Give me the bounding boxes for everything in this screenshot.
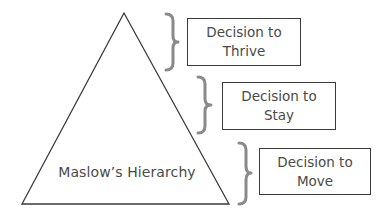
decision-move-line1: Decision to [277,153,352,172]
decision-stay-line1: Decision to [241,87,316,106]
decision-thrive-line1: Decision to [206,23,281,42]
brace-move-icon [239,143,251,204]
decision-thrive-line2: Thrive [223,42,265,61]
decision-stay-line2: Stay [264,106,294,125]
brace-stay-icon [198,77,211,133]
decision-box-thrive: Decision to Thrive [187,18,301,66]
decision-box-stay: Decision to Stay [222,82,336,130]
pyramid-label: Maslow’s Hierarchy [50,164,204,180]
decision-box-move: Decision to Move [259,148,371,195]
brace-thrive-icon [166,14,178,70]
decision-move-line2: Move [297,172,333,191]
